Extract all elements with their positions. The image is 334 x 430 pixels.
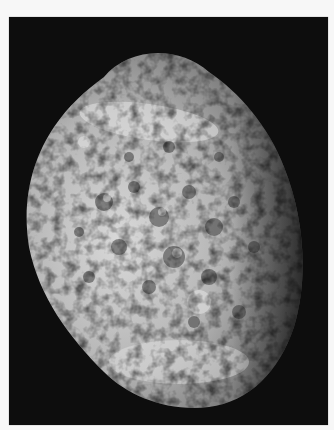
moon-body: [9, 17, 328, 425]
moon-photo: [9, 17, 328, 425]
photo-frame: [9, 17, 328, 425]
